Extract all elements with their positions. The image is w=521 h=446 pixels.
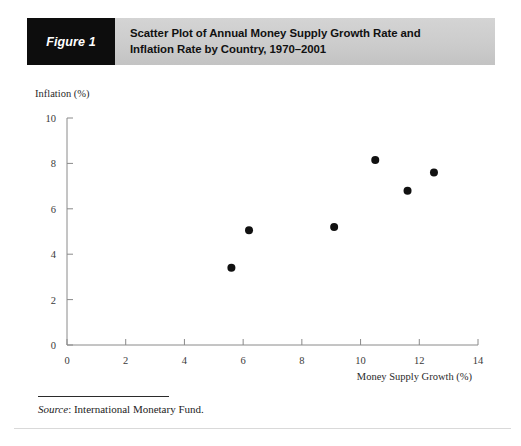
scatter-point: [404, 187, 412, 195]
x-axis-title: Money Supply Growth (%): [357, 371, 473, 383]
figure-page: Figure 1 Scatter Plot of Annual Money Su…: [0, 0, 521, 446]
figure-number-box: Figure 1: [27, 18, 115, 65]
figure-title-container: Scatter Plot of Annual Money Supply Grow…: [115, 18, 495, 65]
x-axis-tick-label: 4: [182, 355, 188, 366]
source-note: Source: International Monetary Fund.: [38, 396, 478, 415]
figure-header-banner: Figure 1 Scatter Plot of Annual Money Su…: [27, 18, 495, 65]
scatter-chart: 0246810 02468101214 Inflation (%) Money …: [0, 70, 521, 390]
y-axis-tick-label: 4: [51, 249, 57, 260]
chart-axes: [67, 118, 478, 345]
scatter-point: [430, 168, 438, 176]
source-value: International Monetary Fund.: [74, 403, 204, 415]
scatter-point: [227, 264, 235, 272]
y-axis-tick-label: 8: [51, 158, 56, 169]
y-axis-tick-label: 10: [46, 113, 57, 124]
scatter-point: [371, 156, 379, 164]
source-prefix: Source: [38, 403, 68, 415]
y-axis-title: Inflation (%): [35, 88, 90, 100]
y-axis-tick-label: 2: [51, 295, 56, 306]
scatter-point: [245, 226, 253, 234]
scatter-point: [330, 223, 338, 231]
figure-title-line-2: Inflation Rate by Country, 1970–2001: [130, 43, 326, 55]
figure-title-line-1: Scatter Plot of Annual Money Supply Grow…: [130, 27, 421, 39]
x-axis-ticks: 02468101214: [64, 339, 484, 366]
x-axis-tick-label: 0: [64, 355, 69, 366]
page-bottom-rule: [14, 428, 511, 429]
y-axis-ticks: 0246810: [46, 113, 74, 351]
source-divider-rule: [38, 396, 169, 397]
y-axis-tick-label: 0: [51, 340, 56, 351]
x-axis-tick-label: 2: [123, 355, 128, 366]
source-text: Source: International Monetary Fund.: [38, 403, 478, 415]
chart-canvas: 0246810 02468101214 Inflation (%) Money …: [0, 70, 521, 390]
x-axis-tick-label: 12: [414, 355, 425, 366]
data-point-group: [227, 156, 438, 272]
x-axis-tick-label: 6: [241, 355, 246, 366]
figure-number-label: Figure 1: [46, 35, 95, 49]
y-axis-tick-label: 6: [51, 204, 56, 215]
x-axis-tick-label: 8: [299, 355, 304, 366]
figure-title: Scatter Plot of Annual Money Supply Grow…: [130, 26, 421, 56]
x-axis-tick-label: 10: [355, 355, 366, 366]
x-axis-tick-label: 14: [473, 355, 484, 366]
